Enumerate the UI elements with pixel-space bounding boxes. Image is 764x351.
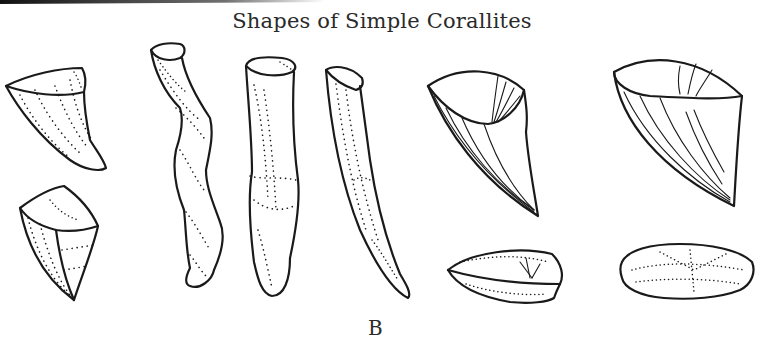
wide-septate-cone-corallite-icon — [614, 60, 742, 206]
discoid-side-corallite-icon — [448, 251, 562, 303]
horn-small-corallite-icon — [6, 68, 106, 170]
straight-cylinder-corallite-icon — [246, 57, 299, 296]
discoid-top-corallite-icon — [621, 244, 754, 299]
septate-cone-corallite-icon — [428, 71, 538, 216]
pyramid-corallite-icon — [20, 186, 98, 300]
sinuous-cylinder-corallite-icon — [151, 43, 223, 287]
corallite-illustrations — [0, 0, 764, 351]
panel-label: B — [368, 316, 383, 340]
long-cone-corallite-icon — [326, 67, 409, 298]
